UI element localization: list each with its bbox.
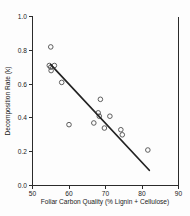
x-tick-label: 50 bbox=[29, 190, 37, 197]
x-tick-label: 70 bbox=[102, 190, 110, 197]
y-axis-ticks: 0.00.20.40.60.81.0 bbox=[18, 13, 33, 189]
data-point bbox=[119, 127, 124, 132]
y-axis-title: Decomposition Rate (k) bbox=[4, 67, 12, 136]
data-point bbox=[49, 68, 54, 73]
axis-frame bbox=[33, 17, 179, 186]
data-point bbox=[48, 45, 53, 50]
data-point bbox=[98, 97, 103, 102]
y-tick-label: 1.0 bbox=[18, 13, 27, 20]
regression-line bbox=[51, 65, 150, 171]
data-point bbox=[67, 122, 72, 127]
y-tick-label: 0.0 bbox=[18, 182, 27, 189]
data-point bbox=[102, 126, 107, 131]
data-point bbox=[146, 148, 151, 153]
x-tick-label: 60 bbox=[65, 190, 73, 197]
data-point bbox=[120, 133, 125, 138]
chart-figure: 5060708090 0.00.20.40.60.81.0 Foliar Car… bbox=[0, 0, 190, 216]
regression-line-group bbox=[51, 65, 150, 171]
y-tick-label: 0.2 bbox=[18, 148, 27, 155]
y-tick-label: 0.6 bbox=[18, 81, 27, 88]
y-tick-label: 0.4 bbox=[18, 114, 27, 121]
x-tick-label: 80 bbox=[138, 190, 146, 197]
scatter-plot: 5060708090 0.00.20.40.60.81.0 Foliar Car… bbox=[0, 0, 190, 216]
y-tick-label: 0.8 bbox=[18, 47, 27, 54]
data-point bbox=[108, 114, 113, 119]
data-point bbox=[59, 80, 64, 85]
data-point bbox=[92, 121, 97, 126]
x-axis-title: Foliar Carbon Quality (% Lignin + Cellul… bbox=[41, 198, 169, 206]
data-point-group bbox=[47, 45, 150, 153]
x-axis-ticks: 5060708090 bbox=[29, 186, 183, 198]
x-tick-label: 90 bbox=[175, 190, 183, 197]
plot-axes bbox=[33, 17, 179, 186]
